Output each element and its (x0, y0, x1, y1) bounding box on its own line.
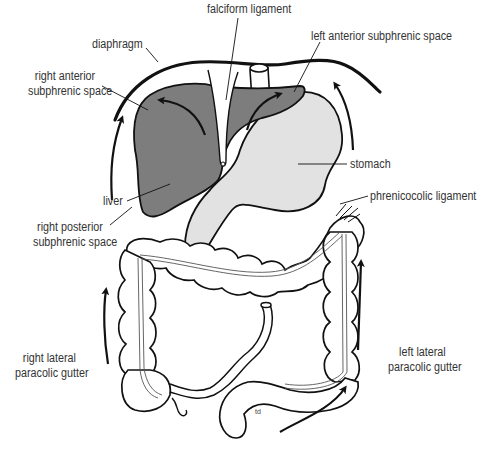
label-line: left lateral (388, 345, 457, 360)
label-line: paracolic gutter (15, 366, 84, 381)
label-right-anterior-subphrenic-space: right anterior subphrenic space (28, 69, 102, 99)
label-right-posterior-subphrenic-space: right posterior subphrenic space (33, 220, 107, 250)
label-left-anterior-subphrenic-space: left anterior subphrenic space (311, 29, 452, 44)
label-liver: liver (103, 194, 123, 209)
label-left-lateral-paracolic-gutter: left lateral paracolic gutter (388, 345, 457, 375)
label-line: right anterior (28, 69, 102, 84)
label-right-lateral-paracolic-gutter: right lateral paracolic gutter (15, 351, 84, 381)
label-line: right lateral (15, 351, 84, 366)
label-line: subphrenic space (33, 235, 107, 250)
diagram-canvas: falciform ligament diaphragm left anteri… (0, 0, 488, 451)
label-diaphragm: diaphragm (92, 37, 143, 52)
label-phrenicocolic-ligament: phrenicocolic ligament (370, 189, 476, 204)
label-line: right posterior (33, 220, 107, 235)
label-stomach: stomach (350, 157, 391, 172)
artist-initials: td (255, 408, 261, 415)
appendix-shape (172, 398, 187, 416)
label-falciform-ligament: falciform ligament (207, 2, 291, 17)
label-line: subphrenic space (28, 84, 102, 99)
label-line: paracolic gutter (388, 360, 457, 375)
